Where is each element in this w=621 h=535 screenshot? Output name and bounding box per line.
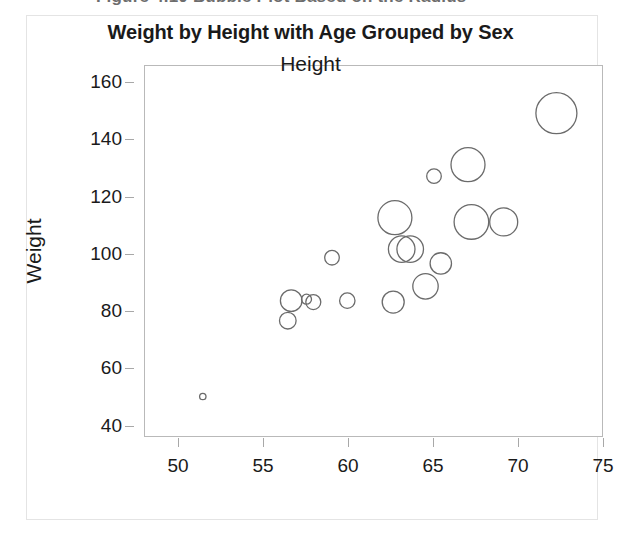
x-tick-label: 75 bbox=[592, 455, 613, 477]
bubble-marker bbox=[451, 148, 485, 182]
bubble-layer bbox=[145, 66, 602, 436]
y-tick-label: 120 bbox=[90, 186, 122, 208]
y-tick-label: 140 bbox=[90, 128, 122, 150]
bubble-series bbox=[145, 66, 602, 436]
bubble-marker bbox=[340, 293, 355, 308]
bubble-marker bbox=[454, 205, 489, 240]
bubble-marker bbox=[378, 201, 412, 235]
bubble-marker bbox=[382, 291, 404, 313]
bubble-marker bbox=[280, 290, 302, 312]
y-tick-label: 100 bbox=[90, 243, 122, 265]
y-tick-mark bbox=[125, 254, 134, 255]
bubble-marker bbox=[306, 295, 321, 310]
figure-caption: Figure 4.10 Bubble Plot Based on the Rad… bbox=[96, 0, 466, 7]
y-tick-mark bbox=[125, 368, 134, 369]
bubble-marker bbox=[388, 236, 415, 263]
x-tick-label: 70 bbox=[507, 455, 528, 477]
plot-area bbox=[144, 65, 603, 437]
y-tick-label: 40 bbox=[101, 415, 122, 437]
bubble-marker bbox=[490, 208, 518, 236]
bubble-marker bbox=[325, 250, 340, 265]
x-tick-mark bbox=[603, 438, 604, 447]
bubble-marker bbox=[430, 253, 451, 274]
y-tick-label: 60 bbox=[101, 357, 122, 379]
x-tick-label: 55 bbox=[252, 455, 273, 477]
y-tick-label: 80 bbox=[101, 300, 122, 322]
x-axis: 505560657075 bbox=[0, 437, 621, 517]
x-tick-label: 65 bbox=[422, 455, 443, 477]
x-tick-label: 50 bbox=[167, 455, 188, 477]
y-tick-mark bbox=[125, 139, 134, 140]
bubble-marker bbox=[413, 274, 438, 299]
y-tick-mark bbox=[125, 311, 134, 312]
x-tick-mark bbox=[178, 438, 179, 447]
bubble-marker bbox=[427, 169, 442, 184]
x-tick-mark bbox=[433, 438, 434, 447]
bubble-marker bbox=[280, 312, 297, 329]
bubble-marker bbox=[200, 393, 206, 399]
x-tick-mark bbox=[263, 438, 264, 447]
bubble-marker bbox=[536, 93, 577, 134]
x-tick-mark bbox=[348, 438, 349, 447]
bubble-marker bbox=[397, 236, 424, 263]
x-axis-label: Height bbox=[0, 52, 621, 76]
y-tick-mark bbox=[125, 82, 134, 83]
y-tick-mark bbox=[125, 197, 134, 198]
y-tick-mark bbox=[125, 426, 134, 427]
x-tick-mark bbox=[518, 438, 519, 447]
x-tick-label: 60 bbox=[337, 455, 358, 477]
y-axis-label: Weight bbox=[22, 219, 46, 284]
